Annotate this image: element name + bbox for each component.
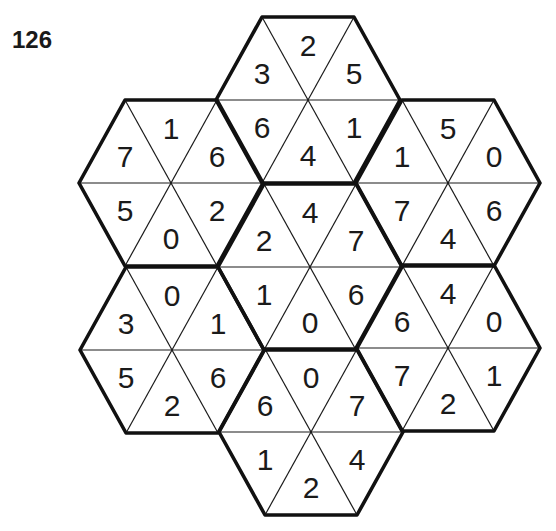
triangle-number: 0 (486, 140, 503, 173)
triangle-number: 5 (117, 194, 134, 227)
triangle-number: 1 (256, 278, 273, 311)
triangle-number: 1 (394, 140, 411, 173)
triangle-number: 1 (486, 359, 503, 392)
triangle-number: 1 (346, 111, 363, 144)
triangle-number: 5 (440, 112, 457, 145)
hexagon-puzzle-board: 2514631620575064714760120162534012760742… (0, 0, 556, 531)
triangle-number: 1 (210, 307, 227, 340)
triangle-number: 7 (394, 194, 411, 227)
triangle-number: 3 (118, 307, 135, 340)
triangle-number: 1 (257, 443, 274, 476)
triangle-number: 7 (394, 359, 411, 392)
triangle-number: 4 (440, 222, 457, 255)
triangle-number: 4 (440, 277, 457, 310)
triangle-number: 1 (163, 112, 180, 145)
triangle-number: 2 (440, 387, 457, 420)
triangle-number: 2 (209, 194, 226, 227)
triangle-number: 5 (346, 57, 363, 90)
triangle-number: 0 (164, 279, 181, 312)
triangle-number: 0 (163, 222, 180, 255)
triangle-number: 0 (486, 305, 503, 338)
triangle-number: 6 (210, 361, 227, 394)
triangle-number: 2 (303, 471, 320, 504)
triangle-number: 3 (254, 57, 271, 90)
triangle-number: 0 (302, 306, 319, 339)
triangle-number: 6 (254, 111, 271, 144)
triangle-number: 7 (349, 389, 366, 422)
triangle-number: 6 (209, 140, 226, 173)
triangle-number: 6 (257, 389, 274, 422)
triangle-number: 4 (300, 139, 317, 172)
triangle-number: 6 (486, 194, 503, 227)
triangle-number: 2 (300, 29, 317, 62)
triangle-number: 6 (394, 305, 411, 338)
triangle-number: 0 (303, 361, 320, 394)
triangle-number: 7 (348, 224, 365, 257)
triangle-number: 7 (117, 140, 134, 173)
triangle-number: 2 (164, 389, 181, 422)
triangle-number: 5 (118, 361, 135, 394)
triangle-number: 4 (302, 196, 319, 229)
triangle-number: 2 (256, 224, 273, 257)
triangle-number: 4 (349, 443, 366, 476)
triangle-number: 6 (348, 278, 365, 311)
